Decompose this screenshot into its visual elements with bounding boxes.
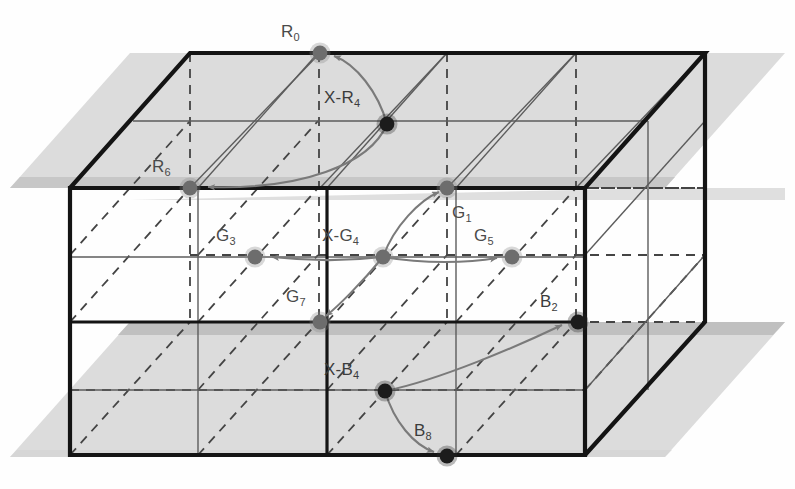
node-dot	[248, 250, 263, 265]
node-label-base: X-G	[322, 226, 353, 245]
lattice-node-b2	[568, 312, 589, 333]
lower-plane-band	[118, 322, 785, 335]
node-dot	[440, 449, 455, 464]
node-label-xg4: X-G4	[322, 226, 359, 247]
node-label-subscript: 0	[293, 31, 299, 43]
node-label-subscript: 4	[353, 235, 359, 247]
node-label-base: G	[286, 287, 299, 306]
node-dot	[378, 384, 393, 399]
node-label-subscript: 1	[465, 212, 471, 224]
node-label-xr4: X-R4	[324, 88, 360, 109]
lattice-node-b8	[437, 446, 458, 467]
node-label-base: X-R	[324, 88, 354, 107]
node-dot	[183, 181, 198, 196]
node-label-g5: G5	[474, 226, 494, 247]
node-label-subscript: 5	[487, 235, 493, 247]
lattice-node-xg4	[373, 247, 394, 268]
node-label-r0: R0	[281, 22, 300, 43]
node-label-g7: G7	[286, 287, 306, 308]
shaded-planes	[10, 53, 785, 457]
node-dot	[571, 315, 586, 330]
node-dot	[313, 46, 328, 61]
node-dot	[505, 250, 520, 265]
node-dot	[440, 181, 455, 196]
arrow-xg4-to-g7	[326, 257, 383, 316]
lattice-node-r0	[310, 43, 331, 64]
node-label-r6: R6	[152, 157, 171, 178]
node-label-subscript: 3	[229, 235, 235, 247]
node-label-b2: B2	[540, 292, 558, 313]
node-label-subscript: 4	[353, 369, 359, 381]
node-label-xb4: X-B4	[324, 360, 359, 381]
node-label-base: R	[152, 157, 164, 176]
node-label-base: G	[474, 226, 487, 245]
lattice-node-g7	[310, 312, 331, 333]
node-label-b8: B8	[414, 421, 432, 442]
node-label-g1: G1	[452, 203, 472, 224]
node-dot	[313, 315, 328, 330]
lattice-node-xb4	[375, 381, 396, 402]
lattice-figure	[0, 0, 795, 489]
node-label-subscript: 7	[299, 296, 305, 308]
node-label-base: X-B	[324, 360, 353, 379]
node-label-subscript: 4	[354, 97, 360, 109]
node-label-base: G	[452, 203, 465, 222]
lattice-node-r6	[180, 178, 201, 199]
node-label-base: R	[281, 22, 293, 41]
node-label-subscript: 8	[426, 430, 432, 442]
arrow-xg4-to-g1	[383, 192, 439, 257]
arrow-xg4-to-g5	[383, 257, 497, 262]
diagram-canvas: R0X-R4R6G1G3X-G4G5G7B2X-B4B8	[0, 0, 795, 489]
node-dot	[380, 117, 395, 132]
node-label-subscript: 6	[164, 166, 170, 178]
lattice-node-g1	[437, 178, 458, 199]
node-label-subscript: 2	[552, 301, 558, 313]
lattice-node-g3	[245, 247, 266, 268]
lattice-node-g5	[502, 247, 523, 268]
node-label-base: B	[414, 421, 426, 440]
node-dot	[376, 250, 391, 265]
node-label-base: B	[540, 292, 552, 311]
node-label-base: G	[216, 226, 229, 245]
lattice-node-xr4	[377, 114, 398, 135]
node-label-g3: G3	[216, 226, 236, 247]
